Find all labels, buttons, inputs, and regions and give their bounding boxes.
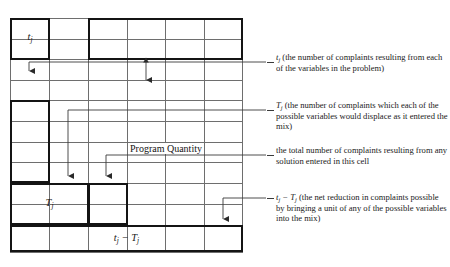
program-quantity-label: Program Quantity <box>128 143 204 154</box>
annotation-t-j-dash <box>267 62 274 63</box>
annotation-t-minus-T-dash <box>267 198 274 199</box>
tableau-grid: tj Tj tj − Tj <box>10 18 243 252</box>
grid-line-horizontal <box>10 80 243 81</box>
cell-label-t-minus-T-minus: − T <box>119 232 137 243</box>
annotation-T-j: Tj (the number of complaints which each … <box>276 100 448 132</box>
annotation-t-j: tj (the number of complaints resulting f… <box>276 52 448 73</box>
cell-left-middle-box <box>10 100 50 183</box>
cell-program-quantity-box <box>88 183 128 225</box>
figure-canvas: tj Tj tj − Tj <box>0 0 450 267</box>
cell-label-T-j: Tj <box>10 198 89 209</box>
cell-label-t-minus-T: tj − Tj <box>10 233 243 244</box>
annotation-T-j-dash <box>267 110 274 111</box>
cell-label-t-j: tj <box>10 32 50 43</box>
annotation-t-minus-T-symbol: tj − Tj <box>276 192 297 202</box>
annotation-T-j-text: (the number of complaints which each of … <box>276 100 448 131</box>
annotation-t-minus-T: tj − Tj (the net reduction in complaints… <box>276 192 448 224</box>
cell-label-t-minus-T-sub2: j <box>137 236 139 245</box>
annotation-t-minus-T-text: (the net reduction in complaints possibl… <box>276 192 447 223</box>
cell-label-t-j-subscript: j <box>30 35 32 44</box>
annotation-total-dash <box>267 155 274 156</box>
annotation-total-complaints: the total number of complaints resulting… <box>276 145 448 166</box>
cell-label-t-minus-T-sub1: j <box>117 236 119 245</box>
annotation-t-j-text: (the number of complaints resulting from… <box>276 52 442 73</box>
grid-line-horizontal <box>10 252 243 253</box>
annotation-total-complaints-text: the total number of complaints resulting… <box>276 145 447 166</box>
cell-top-right-box <box>88 18 243 60</box>
